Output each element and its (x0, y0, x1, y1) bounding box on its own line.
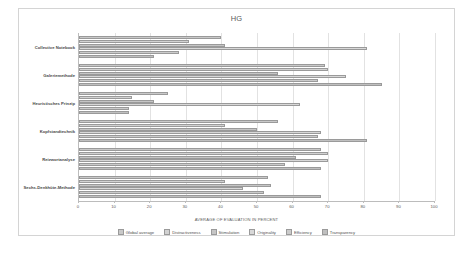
x-tick-label: 80 (360, 204, 365, 209)
x-tick-label: 50 (254, 204, 259, 209)
bar (79, 195, 321, 198)
legend-item[interactable]: Global average (118, 229, 154, 235)
x-tick (185, 201, 186, 203)
legend-item[interactable]: Distractiveness (164, 229, 200, 235)
x-axis: 0102030405060708090100 (78, 201, 435, 213)
bar (79, 83, 382, 86)
chart-title: HG (19, 14, 454, 23)
x-tick (256, 201, 257, 203)
legend-swatch-icon (286, 229, 292, 235)
category-label: Kopfstandtechnik (40, 129, 75, 134)
legend-item[interactable]: Efficiency (286, 229, 312, 235)
legend-swatch-icon (118, 229, 124, 235)
category-label: Galeriemethode (43, 73, 75, 78)
bar-group: Heuristisches Prinzip (79, 89, 435, 117)
x-tick (434, 201, 435, 203)
category-label: Sechs-Denkhüte-Methode (24, 185, 75, 190)
x-tick (327, 201, 328, 203)
legend-item[interactable]: Stimulation (211, 229, 240, 235)
x-tick (114, 201, 115, 203)
bar (79, 55, 154, 58)
legend-label: Global average (126, 230, 154, 235)
x-tick (292, 201, 293, 203)
legend-swatch-icon (249, 229, 255, 235)
x-tick-label: 40 (218, 204, 223, 209)
bar-group: Collective Notebook (79, 33, 435, 61)
x-tick-label: 20 (147, 204, 152, 209)
legend-label: Distractiveness (172, 230, 200, 235)
x-tick-label: 100 (431, 204, 438, 209)
x-tick-label: 10 (111, 204, 116, 209)
legend-label: Efficiency (294, 230, 312, 235)
x-tick-label: 30 (182, 204, 187, 209)
category-label: Collective Notebook (35, 45, 75, 50)
category-label: Reizwortanalyse (42, 157, 75, 162)
legend-item[interactable]: Originality (249, 229, 276, 235)
x-tick-label: 70 (325, 204, 330, 209)
legend-swatch-icon (211, 229, 217, 235)
bar (79, 167, 321, 170)
legend-label: Transparency (330, 230, 355, 235)
x-tick (363, 201, 364, 203)
legend-swatch-icon (322, 229, 328, 235)
x-tick (78, 201, 79, 203)
legend-swatch-icon (164, 229, 170, 235)
x-tick (220, 201, 221, 203)
bar-group: Kopfstandtechnik (79, 117, 435, 145)
bar (79, 111, 129, 114)
bar (79, 139, 367, 142)
gridline (435, 33, 436, 201)
x-tick-label: 90 (396, 204, 401, 209)
plot-area: Collective NotebookGaleriemethodeHeurist… (78, 33, 435, 201)
bar-group: Reizwortanalyse (79, 145, 435, 173)
x-axis-title: AVERAGE OF EVALUATION IN PERCENT (19, 217, 454, 222)
legend-label: Originality (257, 230, 276, 235)
x-tick (149, 201, 150, 203)
x-tick-label: 0 (77, 204, 79, 209)
legend-label: Stimulation (219, 230, 240, 235)
chart-legend: Global averageDistractivenessStimulation… (19, 229, 454, 235)
x-tick-label: 60 (289, 204, 294, 209)
x-tick (398, 201, 399, 203)
chart-container: HG Collective NotebookGaleriemethodeHeur… (18, 8, 455, 236)
legend-item[interactable]: Transparency (322, 229, 355, 235)
bar-group: Galeriemethode (79, 61, 435, 89)
bar-group: Sechs-Denkhüte-Methode (79, 173, 435, 201)
category-label: Heuristisches Prinzip (32, 101, 75, 106)
